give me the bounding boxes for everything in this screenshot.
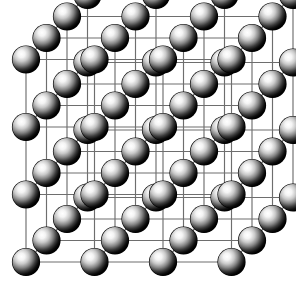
- atom-sphere: [239, 227, 266, 254]
- atom-2-3-1: [169, 24, 197, 52]
- atom-sphere: [211, 0, 238, 9]
- atom-sphere: [259, 138, 286, 165]
- atom-sphere: [54, 138, 81, 165]
- atom-sphere: [54, 206, 81, 233]
- atom-2-1-1: [169, 159, 197, 187]
- atom-sphere: [218, 46, 245, 73]
- atom-2-0-0: [149, 248, 177, 276]
- atom-0-1-2: [53, 137, 81, 165]
- atom-2-1-2: [190, 137, 218, 165]
- atom-sphere: [102, 92, 129, 119]
- atom-sphere: [170, 25, 197, 52]
- atom-1-1-2: [121, 137, 149, 165]
- atom-sphere: [81, 181, 108, 208]
- atom-3-3-0: [217, 45, 245, 73]
- atom-sphere: [191, 71, 218, 98]
- atom-3-2-3: [279, 48, 296, 76]
- atom-0-3-1: [32, 24, 60, 52]
- atom-sphere: [280, 49, 297, 76]
- atom-2-3-2: [190, 2, 218, 30]
- crystal-lattice-figure: [0, 0, 296, 281]
- atom-sphere: [150, 249, 177, 276]
- crystal-lattice-diagram: [0, 0, 296, 281]
- atom-0-0-2: [53, 205, 81, 233]
- atom-sphere: [33, 227, 60, 254]
- atom-sphere: [239, 92, 266, 119]
- atom-1-1-0: [80, 180, 108, 208]
- atom-3-1-2: [258, 137, 286, 165]
- atom-sphere: [54, 71, 81, 98]
- atom-3-0-0: [217, 248, 245, 276]
- atom-sphere: [143, 0, 170, 9]
- atom-1-3-2: [121, 2, 149, 30]
- atom-3-0-3: [279, 183, 296, 211]
- atom-sphere: [218, 249, 245, 276]
- atom-0-3-2: [53, 2, 81, 30]
- atom-sphere: [33, 25, 60, 52]
- atom-sphere: [259, 206, 286, 233]
- atom-sphere: [122, 71, 149, 98]
- atom-1-0-2: [121, 205, 149, 233]
- atom-sphere: [122, 3, 149, 30]
- atom-sphere: [13, 114, 40, 141]
- atom-3-2-0: [217, 113, 245, 141]
- atom-0-2-2: [53, 70, 81, 98]
- atom-sphere: [33, 160, 60, 187]
- atom-sphere: [170, 227, 197, 254]
- atom-0-3-0: [12, 45, 40, 73]
- atom-1-0-1: [101, 226, 129, 254]
- atom-sphere: [191, 3, 218, 30]
- atom-sphere: [33, 92, 60, 119]
- atom-sphere: [102, 227, 129, 254]
- atom-2-0-2: [190, 205, 218, 233]
- atom-sphere: [102, 25, 129, 52]
- atom-0-2-1: [32, 91, 60, 119]
- atom-sphere: [218, 114, 245, 141]
- atoms-group: [12, 0, 296, 276]
- atom-sphere: [54, 3, 81, 30]
- atom-2-2-1: [169, 91, 197, 119]
- atom-sphere: [239, 160, 266, 187]
- atom-sphere: [170, 160, 197, 187]
- atom-3-1-3: [279, 116, 296, 144]
- atom-0-0-1: [32, 226, 60, 254]
- atom-sphere: [13, 249, 40, 276]
- atom-3-0-1: [238, 226, 266, 254]
- atom-2-2-0: [149, 113, 177, 141]
- atom-3-2-1: [238, 91, 266, 119]
- atom-sphere: [74, 0, 101, 9]
- atom-sphere: [122, 138, 149, 165]
- atom-3-1-0: [217, 180, 245, 208]
- atom-1-2-1: [101, 91, 129, 119]
- atom-1-3-0: [80, 45, 108, 73]
- atom-sphere: [122, 206, 149, 233]
- atom-1-0-0: [80, 248, 108, 276]
- atom-0-1-0: [12, 180, 40, 208]
- atom-sphere: [150, 46, 177, 73]
- atom-0-0-0: [12, 248, 40, 276]
- atom-sphere: [170, 92, 197, 119]
- atom-sphere: [81, 249, 108, 276]
- atom-1-1-1: [101, 159, 129, 187]
- atom-1-2-2: [121, 70, 149, 98]
- atom-3-3-2: [258, 2, 286, 30]
- atom-sphere: [13, 181, 40, 208]
- atom-3-0-2: [258, 205, 286, 233]
- atom-0-2-0: [12, 113, 40, 141]
- atom-sphere: [218, 181, 245, 208]
- atom-sphere: [191, 138, 218, 165]
- atom-2-2-2: [190, 70, 218, 98]
- atom-sphere: [81, 46, 108, 73]
- atom-3-1-1: [238, 159, 266, 187]
- atom-1-2-0: [80, 113, 108, 141]
- atom-2-1-0: [149, 180, 177, 208]
- atom-sphere: [102, 160, 129, 187]
- atom-sphere: [259, 3, 286, 30]
- atom-2-0-1: [169, 226, 197, 254]
- atom-sphere: [13, 46, 40, 73]
- atom-sphere: [150, 181, 177, 208]
- atom-sphere: [280, 184, 297, 211]
- atom-sphere: [150, 114, 177, 141]
- atom-sphere: [259, 71, 286, 98]
- atom-2-3-0: [149, 45, 177, 73]
